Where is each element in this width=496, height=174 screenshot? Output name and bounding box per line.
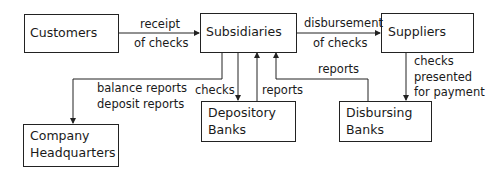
node-depository-banks: Depository Banks <box>201 101 296 142</box>
node-suppliers-label: Suppliers <box>388 24 446 40</box>
edge-label-of-checks-1: of checks <box>134 36 188 51</box>
edge-label-disbursement: disbursement <box>304 16 383 31</box>
node-company-headquarters-line1: Company <box>30 128 89 144</box>
node-disbursing-banks: Disbursing Banks <box>339 101 432 142</box>
node-disbursing-banks-line1: Disbursing <box>346 105 412 121</box>
node-company-headquarters: Company Headquarters <box>23 124 119 167</box>
node-customers: Customers <box>24 14 119 53</box>
node-suppliers: Suppliers <box>381 13 474 53</box>
edge-label-balance-reports: balance reports <box>97 81 187 96</box>
edge-label-checks-presented-3: for payment <box>414 85 485 100</box>
edge-label-checks-presented-2: presented <box>414 70 472 85</box>
edge-label-of-checks-2: of checks <box>313 36 367 51</box>
node-depository-banks-line2: Banks <box>208 122 246 138</box>
node-disbursing-banks-line2: Banks <box>346 122 384 138</box>
node-company-headquarters-line2: Headquarters <box>30 145 116 161</box>
edge-label-checks: checks <box>195 83 235 98</box>
edge-label-reports-depository: reports <box>262 83 303 98</box>
node-depository-banks-line1: Depository <box>208 105 276 121</box>
node-subsidiaries: Subsidiaries <box>200 13 297 53</box>
node-customers-label: Customers <box>30 25 97 41</box>
edge-label-receipt: receipt <box>140 17 180 32</box>
node-subsidiaries-label: Subsidiaries <box>206 24 282 40</box>
edge-label-deposit-reports: deposit reports <box>97 97 184 112</box>
edge-label-checks-presented-1: checks <box>414 54 454 69</box>
edge-label-reports-disbursing: reports <box>318 62 359 77</box>
